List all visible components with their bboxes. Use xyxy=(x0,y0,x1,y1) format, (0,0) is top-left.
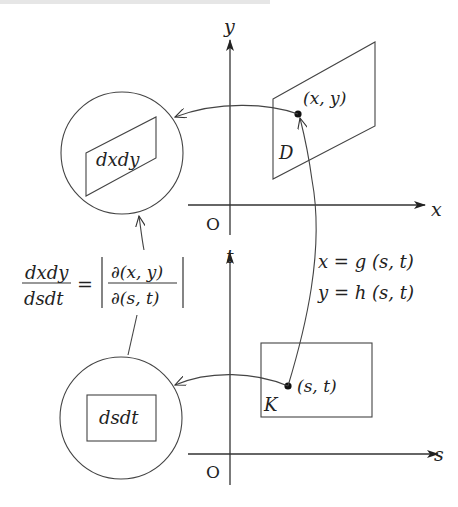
lower-plane: t s O K (s, t) xyxy=(188,245,444,485)
mapping-eq-y: y = h (s, t) xyxy=(317,282,414,303)
region-d-label: D xyxy=(278,142,294,163)
arrow-to-lower-circle xyxy=(175,375,288,386)
origin-label-lower: O xyxy=(206,462,220,482)
mapping-eq-x: x = g (s, t) xyxy=(318,251,414,272)
dxdy-label: dxdy xyxy=(96,149,140,170)
y-axis-label: y xyxy=(223,15,235,37)
t-axis-label: t xyxy=(226,245,234,267)
mapping: x = g (s, t) y = h (s, t) xyxy=(288,118,414,386)
zoom-circle-dxdy: dxdy xyxy=(61,92,298,214)
origin-label-upper: O xyxy=(206,214,220,234)
connector-formula-to-upper xyxy=(139,216,144,250)
x-axis-label: x xyxy=(431,198,442,220)
formula-equals: = xyxy=(77,273,93,295)
change-of-variables-diagram: y x O D (x, y) t s O K (s, t) x = g (s, … xyxy=(0,0,458,507)
jacobian-formula: dxdy dsdt = ∂(x, y) ∂(s, t) xyxy=(22,257,183,309)
region-k-label: K xyxy=(263,394,279,415)
formula-lhs-numerator: dxdy xyxy=(25,262,69,283)
formula-rhs-denominator: ∂(s, t) xyxy=(111,288,159,308)
dsdt-label: dsdt xyxy=(99,407,139,428)
zoom-circle-dsdt: dsdt xyxy=(60,357,288,479)
connector-lower-to-formula xyxy=(128,315,137,355)
formula-lhs-denominator: dsdt xyxy=(24,288,64,309)
formula-rhs-numerator: ∂(x, y) xyxy=(111,262,163,282)
s-axis-label: s xyxy=(434,443,444,465)
point-st-label: (s, t) xyxy=(297,376,337,396)
point-xy-label: (x, y) xyxy=(303,88,346,108)
arrow-to-upper-circle xyxy=(175,105,298,117)
